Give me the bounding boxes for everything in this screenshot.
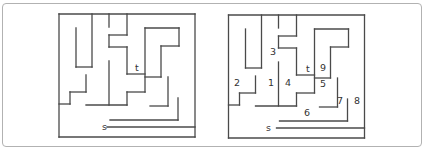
label-5: 5	[320, 78, 326, 89]
maze-figure: ts 3214t95786s	[0, 0, 425, 150]
maze-unlabeled: ts	[59, 14, 195, 137]
label-9: 9	[320, 62, 326, 73]
label-1: 1	[268, 77, 274, 88]
label-2: 2	[234, 77, 240, 88]
maze-figure-page: ts 3214t95786s	[0, 0, 425, 150]
label-8: 8	[354, 95, 360, 106]
maze-numbered: 3214t95786s	[229, 15, 365, 138]
label-7: 7	[337, 95, 343, 106]
label-4: 4	[285, 77, 291, 88]
label-6: 6	[304, 107, 310, 118]
label-t-right: t	[306, 63, 310, 74]
label-t-left: t	[135, 62, 139, 73]
label-s-left: s	[102, 121, 107, 132]
label-3: 3	[270, 46, 276, 57]
label-s-right: s	[266, 122, 271, 133]
